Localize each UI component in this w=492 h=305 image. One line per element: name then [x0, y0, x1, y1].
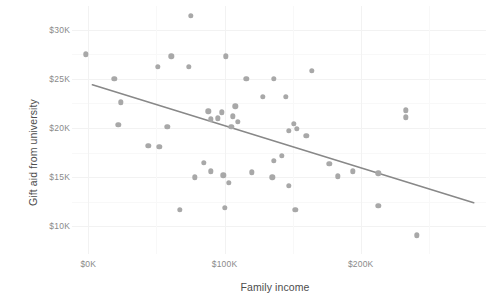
- scatter-plot-chart: Gift aid from university Family income $…: [0, 0, 492, 305]
- y-tick-label: $30K: [22, 25, 70, 35]
- x-tick-label: $200K: [348, 259, 374, 269]
- y-tick-label: $15K: [22, 172, 70, 182]
- trend-line: [72, 6, 486, 254]
- x-tick-label: $0K: [80, 259, 96, 269]
- plot-panel: [72, 6, 486, 254]
- x-axis-title: Family income: [75, 281, 475, 293]
- x-axis-tick-labels: $0K$100K$200K: [0, 259, 492, 273]
- y-tick-label: $20K: [22, 123, 70, 133]
- y-tick-label: $25K: [22, 74, 70, 84]
- y-tick-label: $10K: [22, 221, 70, 231]
- x-tick-label: $100K: [212, 259, 238, 269]
